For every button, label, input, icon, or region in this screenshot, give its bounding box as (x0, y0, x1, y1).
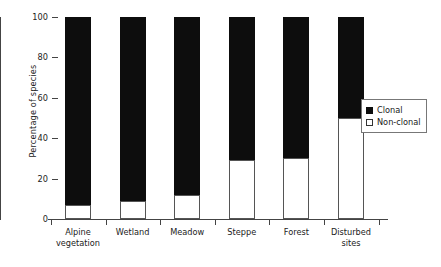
bar-segment-non-clonal (174, 195, 200, 219)
chart-legend: Clonal Non-clonal (361, 99, 427, 133)
bar-alpine-vegetation (65, 17, 91, 219)
x-tick-0 (51, 220, 52, 225)
x-tick-1 (106, 220, 107, 225)
x-tick-label-line2: vegetation (41, 238, 115, 249)
hollow-square-icon (366, 119, 373, 126)
bar-segment-clonal (120, 17, 146, 201)
x-tick-5 (324, 220, 325, 225)
bar-segment-non-clonal (338, 118, 364, 219)
chart-figure: Percentage of species 020406080100 Alpin… (0, 0, 441, 267)
y-axis-line (0, 17, 1, 220)
legend-label-non-clonal: Non-clonal (377, 117, 421, 127)
bar-segment-clonal (65, 17, 91, 205)
bar-segment-non-clonal (120, 201, 146, 219)
x-tick-label-line2: sites (314, 238, 388, 249)
bar-forest (283, 17, 309, 219)
bar-segment-non-clonal (65, 205, 91, 219)
bar-meadow (174, 17, 200, 219)
bar-segment-clonal (229, 17, 255, 160)
bar-wetland (120, 17, 146, 219)
legend-item-non-clonal: Non-clonal (366, 116, 421, 128)
x-axis-line (48, 219, 388, 220)
y-axis-title: Percentage of species (28, 16, 38, 206)
y-tick-label-100: 100 (32, 12, 48, 22)
legend-item-clonal: Clonal (366, 104, 421, 116)
bar-segment-clonal (283, 17, 309, 158)
filled-square-icon (366, 107, 373, 114)
x-tick-label-line1: Disturbed (314, 227, 388, 238)
y-tick-label-40: 40 (38, 133, 48, 143)
x-tick-3 (215, 220, 216, 225)
bar-segment-clonal (174, 17, 200, 195)
y-tick-0: 0 (52, 219, 58, 220)
bar-segment-non-clonal (283, 158, 309, 219)
y-tick-label-60: 60 (38, 93, 48, 103)
x-tick-6 (379, 220, 380, 225)
bar-steppe (229, 17, 255, 219)
y-tick-label-20: 20 (38, 174, 48, 184)
x-tick-2 (160, 220, 161, 225)
x-tick-4 (269, 220, 270, 225)
y-tick-label-80: 80 (38, 52, 48, 62)
plot-area (58, 17, 385, 219)
legend-label-clonal: Clonal (377, 105, 402, 115)
bar-segment-non-clonal (229, 160, 255, 219)
y-tick-label-0: 0 (43, 214, 48, 224)
x-tick-label-5: Disturbedsites (314, 227, 388, 248)
